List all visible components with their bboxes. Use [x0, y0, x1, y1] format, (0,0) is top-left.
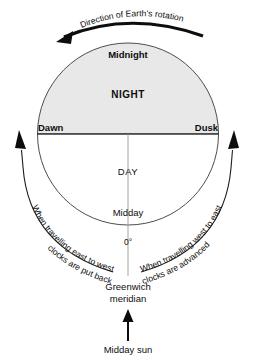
midnight-label: Midnight [108, 49, 148, 60]
dusk-label: Dusk [195, 122, 219, 133]
day-label: DAY [118, 166, 138, 177]
dawn-label: Dawn [38, 122, 64, 133]
greenwich-meridian-label-line1: Greenwich [105, 281, 150, 292]
greenwich-meridian-label-line2: meridian [110, 293, 146, 304]
longitude-zero-label: 0° [124, 237, 132, 247]
night-label: NIGHT [111, 89, 145, 100]
earth-day-night-diagram: Direction of Earth's rotation Midnight N… [0, 0, 254, 361]
midday-sun-label: Midday sun [104, 344, 153, 355]
midday-label: Midday [113, 207, 144, 218]
